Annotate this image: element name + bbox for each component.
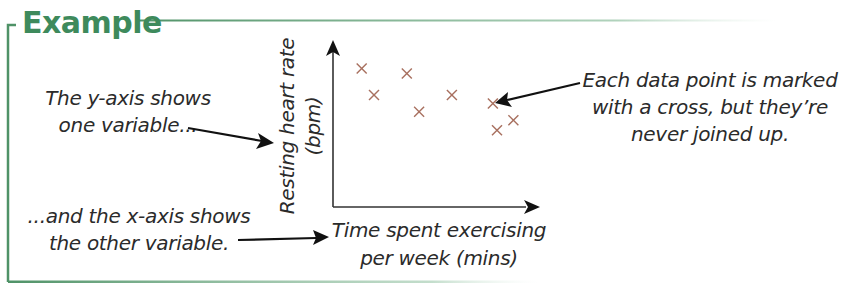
scatter-chart [0,0,842,285]
cross-marker-icon [508,115,518,125]
x-axis-callout-arrow-icon [238,230,329,245]
x-axis-arrowhead-icon [524,200,540,214]
y-axis [326,40,340,207]
cross-marker-icon [447,90,457,100]
cross-marker-icon [369,90,379,100]
x-axis [333,200,540,214]
data-point-callout-arrow-icon [495,83,580,107]
data-points [357,63,519,135]
cross-marker-icon [357,63,367,73]
cross-marker-icon [414,107,424,117]
cross-marker-icon [492,125,502,135]
cross-marker-icon [488,98,498,108]
y-axis-callout-arrow-icon [188,128,274,149]
cross-marker-icon [402,68,412,78]
